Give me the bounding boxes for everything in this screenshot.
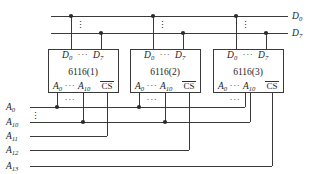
- address-inner-dots-chip1: ···: [65, 94, 76, 104]
- address-label-a13-sub: 13: [12, 165, 19, 172]
- chip2-addr-dots: ···: [147, 80, 158, 90]
- address-label-a0: A0: [5, 102, 16, 113]
- chip-6116-3[interactable]: D0 ··· D7 6116(3) A0 ··· A10 CS: [213, 49, 283, 92]
- chip2-data-dots: ···: [160, 49, 171, 59]
- data-bus-ellipsis-1: ⋮: [76, 20, 85, 30]
- chip3-name: 6116(3): [233, 67, 263, 78]
- chip1-name: 6116(1): [68, 67, 98, 78]
- data-bus-label-d0-sub: 0: [299, 15, 303, 22]
- address-inner-dots-chip2: ···: [147, 94, 158, 104]
- circuit-diagram-figure: ⋮ ⋮ ⋮ D0 D7 D0 ··· D7 6116(1): [0, 0, 321, 174]
- address-label-a10-sub: 10: [12, 121, 19, 128]
- data-bus-ellipsis-3: ⋮: [241, 20, 250, 30]
- chip-6116-1[interactable]: D0 ··· D7 6116(1) A0 ··· A10 CS: [48, 49, 118, 92]
- data-bus-label-d0-letter: D: [291, 11, 299, 21]
- junction-dot-chip2-a0: [137, 105, 141, 109]
- chip3-data-left-letter: D: [226, 50, 234, 60]
- address-inner-dots-chip3: ···: [230, 94, 241, 104]
- chip3-cs-label: CS: [266, 81, 277, 91]
- chip1-cs-label: CS: [101, 81, 112, 91]
- address-bus-lines: [30, 107, 272, 166]
- chip3-addr-right-sub: 10: [249, 85, 256, 92]
- address-label-a10: A10: [5, 117, 19, 128]
- chip1-data-right-letter: D: [92, 50, 100, 60]
- data-bus-ellipses: ⋮ ⋮ ⋮: [76, 20, 250, 30]
- address-inner-ellipses: ··· ··· ···: [65, 94, 241, 104]
- junction-dot-chip2-d0: [151, 14, 155, 18]
- data-bus-labels: D0 D7: [291, 11, 303, 39]
- chip1-data-left-letter: D: [61, 50, 69, 60]
- chip2-name: 6116(2): [150, 67, 180, 78]
- address-label-a12: A12: [5, 145, 19, 156]
- chip1-addr-right-sub: 10: [84, 85, 91, 92]
- chip-6116-2[interactable]: D0 ··· D7 6116(2) A0 ··· A10 CS: [130, 49, 200, 92]
- chip2-data-left-letter: D: [143, 50, 151, 60]
- address-label-a13: A13: [5, 161, 19, 172]
- junction-dot-chip3-d7: [264, 31, 268, 35]
- chip2-data-right-letter: D: [174, 50, 182, 60]
- chip1-addr-dots: ···: [65, 80, 76, 90]
- junction-dot-chip1-d0: [69, 14, 73, 18]
- chip1-data-dots: ···: [78, 49, 89, 59]
- data-bus-label-d7: D7: [291, 28, 303, 39]
- junction-dot-chip1-d7: [99, 31, 103, 35]
- chip-select-wires: [107, 92, 272, 166]
- chip3-data-dots: ···: [243, 49, 254, 59]
- chip2-cs-label: CS: [183, 81, 194, 91]
- chip3-data-right-letter: D: [257, 50, 265, 60]
- junction-dot-chip1-a0: [55, 105, 59, 109]
- circuit-diagram-svg: ⋮ ⋮ ⋮ D0 D7 D0 ··· D7 6116(1): [0, 0, 321, 174]
- address-bus-junctions: [55, 105, 167, 124]
- data-bus-label-d7-letter: D: [291, 28, 299, 38]
- data-bus-label-d0: D0: [291, 11, 303, 22]
- address-bus-labels: A0 A10 A11 A12 A13 ⋮: [5, 102, 40, 172]
- data-bus-ellipsis-2: ⋮: [158, 20, 167, 30]
- junction-dot-chip2-d7: [181, 31, 185, 35]
- data-bus-junctions: [69, 14, 268, 35]
- address-bus-ellipsis-left: ⋮: [31, 111, 40, 121]
- data-bus-group: [51, 16, 288, 33]
- address-label-a0-sub: 0: [12, 106, 16, 113]
- chip3-addr-dots: ···: [230, 80, 241, 90]
- junction-dot-chip1-a10: [81, 120, 85, 124]
- address-label-a11: A11: [5, 131, 18, 142]
- data-bus-label-d7-sub: 7: [299, 32, 303, 39]
- address-label-a12-sub: 12: [12, 149, 19, 156]
- junction-dot-chip3-d0: [234, 14, 238, 18]
- junction-dot-chip2-a10: [163, 120, 167, 124]
- chip2-addr-right-sub: 10: [166, 85, 173, 92]
- address-label-a11-sub: 11: [12, 135, 18, 142]
